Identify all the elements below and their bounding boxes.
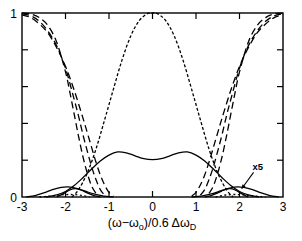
x-tick-label: -2 bbox=[60, 200, 71, 214]
x-tick-label: -3 bbox=[17, 200, 28, 214]
x-tick-label: -1 bbox=[104, 200, 115, 214]
x-tick-label: 1 bbox=[193, 200, 200, 214]
x-axis-title: (ω−ωo)/0.6 ΔωD bbox=[108, 216, 197, 232]
x-axis-title-mid: )/0.6 Δω bbox=[144, 216, 190, 230]
x-axis-title-open: (ω−ω bbox=[108, 216, 139, 230]
x-axis-title-sub-d: D bbox=[190, 222, 197, 232]
y-tick-label: 0 bbox=[10, 191, 17, 205]
y-tick-label: 1 bbox=[10, 7, 17, 21]
x-tick-label: 2 bbox=[236, 200, 243, 214]
x-tick-label: 3 bbox=[280, 200, 287, 214]
x-tick-label: 0 bbox=[149, 200, 156, 214]
figure-root: -3-2-1012301 x5 (ω−ωo)/0.6 ΔωD bbox=[0, 0, 302, 241]
annotation-x5-label: x5 bbox=[253, 161, 264, 172]
line-chart: -3-2-1012301 x5 (ω−ωo)/0.6 ΔωD bbox=[0, 0, 302, 241]
